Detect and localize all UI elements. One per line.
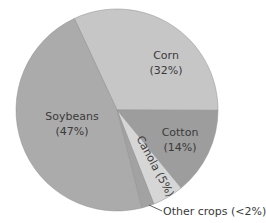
corn-percent: (32%) (149, 64, 182, 77)
pie-chart: Corn (32%) Soybeans (47%) Cotton (14%) C… (0, 0, 266, 223)
corn-label: Corn (153, 49, 179, 62)
soybeans-label: Soybeans (45, 110, 99, 123)
other-crops-leader-line (149, 205, 162, 211)
other-crops-label: Other crops (<2%) (163, 205, 266, 218)
cotton-label: Cotton (162, 126, 199, 139)
cotton-percent: (14%) (163, 141, 196, 154)
soybeans-percent: (47%) (55, 125, 88, 138)
